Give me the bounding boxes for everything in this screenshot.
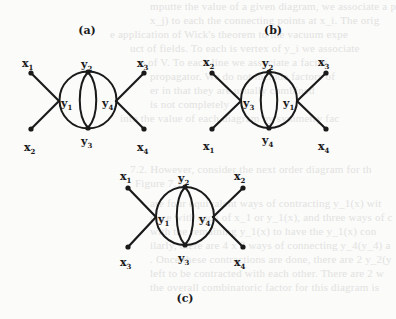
vertex-dot	[266, 125, 271, 130]
label-top-right: x3	[137, 57, 149, 72]
label-top-right: x3	[318, 56, 330, 71]
propagator-x4-y4	[213, 217, 243, 247]
label-top-right: x2	[234, 170, 246, 185]
label-bottom-right: x4	[234, 256, 246, 271]
propagator-x1-y3	[212, 101, 241, 129]
label-top-left: x1	[22, 57, 34, 72]
vertex-dot	[240, 244, 245, 249]
vertex-dot	[125, 185, 130, 190]
vertex-dot	[28, 126, 33, 131]
vertex-dot	[182, 242, 187, 247]
label-bottom-vertex: y3	[177, 252, 189, 267]
propagator-x2-y4	[213, 188, 243, 217]
label-top-vertex: y2	[261, 57, 273, 72]
label-bottom-right: x4	[137, 141, 149, 156]
panel-b: (b) x2 x1 x3 x4 y2 y4 y3 y1	[203, 24, 330, 155]
inner-arc-right	[269, 72, 277, 128]
label-top-vertex: y2	[80, 58, 92, 73]
vertex-dot	[141, 126, 146, 131]
propagator-x3-y4	[116, 73, 144, 101]
inner-arc-right	[88, 72, 96, 128]
vertex-dot	[240, 185, 245, 190]
label-bottom-vertex: y3	[80, 135, 92, 150]
label-right-vertex: y4	[198, 213, 210, 228]
label-bottom-right: x4	[318, 140, 330, 155]
panel-c: (c) x1 x3 x2 x4 y2 y3 y1 y4	[120, 170, 246, 305]
inner-arc-left	[261, 72, 269, 128]
vertex-dot	[85, 125, 90, 130]
label-right-vertex: y4	[101, 97, 113, 112]
propagator-x3-y1	[297, 73, 326, 101]
label-left-vertex: y3	[242, 97, 254, 112]
vertex-dot	[323, 126, 328, 131]
propagator-x1-y1	[128, 188, 156, 217]
label-bottom-left: x1	[203, 140, 215, 155]
vertex-dot	[209, 126, 214, 131]
label-left-vertex: y1	[60, 97, 72, 112]
label-top-vertex: y2	[177, 172, 189, 187]
label-bottom-left: x2	[24, 141, 36, 156]
label-bottom-vertex: y4	[261, 134, 273, 149]
panel-a: (a) x1 x2 x3 x4 y2 y3 y1 y4	[22, 24, 149, 156]
vertex-dot	[209, 70, 214, 75]
panel-c-label: (c)	[176, 292, 193, 305]
propagator-x4-y1	[297, 101, 326, 129]
propagator-x1-y1	[31, 73, 59, 101]
vertex-dot	[125, 244, 130, 249]
label-right-vertex: y1	[282, 97, 294, 112]
propagator-x2-y3	[212, 73, 241, 101]
label-left-vertex: y1	[157, 213, 169, 228]
panel-b-label: (b)	[264, 24, 282, 37]
inner-arc-left	[80, 72, 88, 128]
inner-arc-left	[177, 187, 185, 245]
label-top-left: x1	[120, 170, 132, 185]
propagator-x3-y1	[128, 217, 156, 247]
label-top-left: x2	[203, 56, 215, 71]
label-bottom-left: x3	[120, 256, 132, 271]
inner-arc-right	[185, 187, 193, 245]
propagator-x4-y4	[116, 101, 144, 129]
propagator-x2-y1	[31, 101, 59, 129]
vertex-dot	[323, 70, 328, 75]
panel-a-label: (a)	[78, 24, 96, 37]
